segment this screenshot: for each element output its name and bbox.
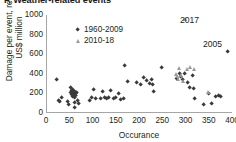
y-tick-label: 600	[17, 49, 43, 58]
x-tick-label: 0	[33, 116, 59, 125]
triangle-marker-icon	[74, 36, 83, 45]
diamond-marker-icon	[74, 25, 83, 34]
legend-item-triangle: 2010-18	[74, 35, 123, 46]
x-tick-label: 400	[219, 116, 236, 125]
x-tick-label: 250	[149, 116, 175, 125]
y-tick-label: 200	[17, 88, 43, 97]
legend-item-label: 1960-2009	[84, 24, 123, 35]
annotation-2017: 2017	[180, 15, 199, 25]
legend-item-label: 2010-18	[84, 35, 114, 46]
x-tick-label: 100	[80, 116, 106, 125]
x-axis-tick-labels: 050100150200250300350400	[0, 116, 236, 128]
legend-item-diamond: 1960-2009	[74, 24, 123, 35]
x-axis-title: Occurance	[46, 130, 232, 140]
annotation-2005: 2005	[203, 39, 222, 49]
x-tick-label: 300	[173, 116, 199, 125]
x-tick-label: 150	[103, 116, 129, 125]
weather-related-events-chart: F. Weather-related events Damage per eve…	[0, 0, 236, 142]
legend: 1960-20092010-18	[74, 24, 123, 46]
y-axis-title-line-1: Damage per event, real	[4, 0, 14, 81]
x-tick-label: 50	[56, 116, 82, 125]
y-tick-label: 800	[17, 30, 43, 39]
x-tick-label: 350	[196, 116, 222, 125]
y-tick-label: 400	[17, 69, 43, 78]
x-tick-label: 200	[126, 116, 152, 125]
y-tick-label: 1000	[17, 10, 43, 19]
